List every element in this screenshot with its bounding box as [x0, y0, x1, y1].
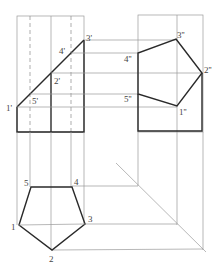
labels: 1' 5' 2' 4' 3' 3'' 4'' 2'' 5'' 1'' 5 4 3… [6, 30, 212, 264]
label-1p: 1' [6, 103, 13, 113]
label-1pp: 1'' [179, 107, 187, 117]
projection-drawing: 1' 5' 2' 4' 3' 3'' 4'' 2'' 5'' 1'' 5 4 3… [0, 0, 224, 272]
side-view [138, 15, 203, 132]
label-4pp: 4'' [124, 54, 132, 64]
label-2pp: 2'' [204, 65, 212, 75]
label-2p: 2' [54, 76, 61, 86]
label-3: 3 [88, 214, 93, 224]
side-view-outline [138, 15, 203, 132]
top-construction-1-3 [19, 224, 85, 225]
top-pentagon [19, 187, 85, 250]
label-5pp: 5'' [124, 94, 132, 104]
front-view [17, 16, 84, 132]
miter-line-45deg [116, 163, 206, 252]
label-5: 5 [24, 178, 29, 188]
label-4: 4 [74, 177, 79, 187]
label-3p: 3' [86, 33, 93, 43]
label-4p: 4' [59, 46, 66, 56]
top-view [19, 187, 85, 250]
horizontal-projectors [17, 40, 202, 107]
label-1: 1 [11, 222, 16, 232]
label-3pp: 3'' [177, 30, 185, 40]
side-visible-outline [138, 73, 202, 131]
miter-construction [52, 132, 206, 252]
label-5p: 5' [32, 96, 39, 106]
section-pentagon [138, 39, 202, 106]
label-2: 2 [49, 254, 54, 264]
